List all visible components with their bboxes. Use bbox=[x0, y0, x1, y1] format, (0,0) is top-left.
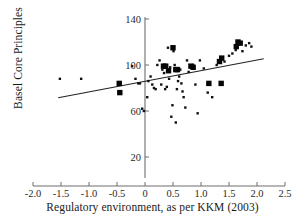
data-point-dot bbox=[194, 83, 196, 85]
data-point-dot bbox=[176, 88, 178, 90]
data-point-dot bbox=[187, 71, 189, 73]
data-point-square bbox=[218, 81, 223, 86]
x-tick-label: 1.5 bbox=[222, 188, 235, 199]
data-point-dot bbox=[160, 83, 162, 85]
data-point-dot bbox=[149, 75, 151, 77]
data-point-dot bbox=[181, 90, 183, 92]
x-tick-label: -2.0 bbox=[25, 188, 42, 199]
data-point-dot bbox=[250, 45, 252, 47]
data-point-dot bbox=[168, 78, 170, 80]
data-point-dot bbox=[147, 80, 149, 82]
data-point-square bbox=[166, 68, 171, 73]
data-point-dot bbox=[158, 59, 160, 61]
x-tick-label: -1.0 bbox=[81, 188, 98, 199]
data-point-dot bbox=[231, 52, 233, 54]
data-point-dot bbox=[134, 78, 136, 80]
x-tick-label: 1.0 bbox=[194, 188, 207, 199]
data-point-dot bbox=[184, 106, 186, 108]
y-axis-ticks bbox=[145, 19, 149, 157]
y-tick-label: 100 bbox=[113, 60, 141, 71]
data-point-square bbox=[206, 81, 211, 86]
data-point-dot bbox=[245, 44, 247, 46]
data-point-dot bbox=[228, 55, 230, 57]
y-axis-title: Basel Core Principles bbox=[12, 0, 24, 138]
data-point-square bbox=[190, 65, 195, 70]
data-point-dot bbox=[141, 108, 143, 110]
y-tick-label: 20 bbox=[113, 152, 141, 163]
data-point-dot bbox=[248, 42, 250, 44]
data-point-dot bbox=[207, 91, 209, 93]
data-point-square bbox=[238, 40, 243, 45]
data-point-dot bbox=[59, 78, 61, 80]
data-point-dot bbox=[173, 64, 175, 66]
data-point-dot bbox=[196, 112, 198, 114]
data-point-dot bbox=[180, 82, 182, 84]
x-axis-title: Regulatory environment, as per KKM (2003… bbox=[0, 200, 305, 214]
data-point-dot bbox=[146, 96, 148, 98]
data-point-square bbox=[175, 67, 180, 72]
data-point-dot bbox=[211, 96, 213, 98]
data-point-dot bbox=[166, 86, 168, 88]
data-point-dot bbox=[178, 75, 180, 77]
y-tick-label: 60 bbox=[113, 106, 141, 117]
data-point-dot bbox=[203, 67, 205, 69]
data-point-dot bbox=[171, 104, 173, 106]
scatter-plot-figure: -2.0-1.5-1.0-0.500.51.01.52.02.5 2060100… bbox=[0, 0, 305, 224]
data-point-dot bbox=[156, 64, 158, 66]
data-point-dot bbox=[154, 88, 156, 90]
axes-group bbox=[33, 17, 285, 186]
data-point-square bbox=[117, 81, 122, 86]
data-point-dot bbox=[167, 47, 169, 49]
data-point-square bbox=[219, 55, 224, 60]
x-tick-label: 0.5 bbox=[166, 188, 179, 199]
data-point-dot bbox=[199, 59, 201, 61]
x-tick-label: -0.5 bbox=[109, 188, 126, 199]
data-point-dot bbox=[182, 96, 184, 98]
data-point-dot bbox=[80, 78, 82, 80]
data-point-dot bbox=[175, 121, 177, 123]
x-tick-label: 2.5 bbox=[278, 188, 291, 199]
y-tick-label: 140 bbox=[113, 14, 141, 25]
data-point-square bbox=[117, 90, 122, 95]
x-tick-label: -1.5 bbox=[53, 188, 70, 199]
data-point-dot bbox=[143, 110, 145, 112]
data-point-dot bbox=[170, 116, 172, 118]
data-point-dot bbox=[139, 82, 141, 84]
data-point-dot bbox=[186, 59, 188, 61]
x-tick-label: 0 bbox=[142, 188, 147, 199]
data-point-dot bbox=[177, 80, 179, 82]
data-point-dot bbox=[241, 50, 243, 52]
data-point-dot bbox=[164, 88, 166, 90]
data-point-dot bbox=[163, 72, 165, 74]
data-point-square bbox=[170, 45, 175, 50]
data-point-dot bbox=[151, 83, 153, 85]
x-axis-ticks bbox=[33, 182, 285, 186]
x-tick-label: 2.0 bbox=[250, 188, 263, 199]
data-point-square bbox=[163, 63, 168, 68]
